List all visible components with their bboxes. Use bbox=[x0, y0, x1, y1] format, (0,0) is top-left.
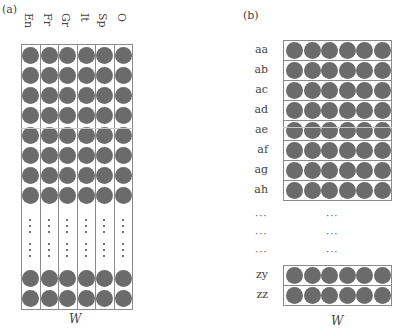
panel-a-label: (a) bbox=[2, 3, 17, 16]
circle bbox=[321, 122, 338, 139]
circle bbox=[304, 82, 321, 99]
circle bbox=[304, 142, 321, 159]
circle bbox=[321, 182, 338, 199]
circle bbox=[41, 127, 58, 144]
circle bbox=[41, 47, 58, 64]
circle bbox=[59, 107, 76, 124]
ellipsis-label: ··· bbox=[255, 211, 268, 221]
circle bbox=[356, 182, 373, 199]
circle bbox=[22, 127, 39, 144]
circle bbox=[78, 87, 95, 104]
circle bbox=[304, 267, 321, 284]
circle bbox=[96, 147, 113, 164]
circle bbox=[321, 267, 338, 284]
circle bbox=[356, 287, 373, 304]
circle bbox=[22, 167, 39, 184]
ellipsis-dot bbox=[85, 255, 87, 257]
row-label-zy: zy bbox=[238, 268, 268, 281]
circle bbox=[59, 47, 76, 64]
circle bbox=[41, 87, 58, 104]
circle bbox=[339, 102, 356, 119]
circle bbox=[115, 67, 132, 84]
circle bbox=[321, 102, 338, 119]
circle bbox=[304, 62, 321, 79]
circle bbox=[96, 187, 113, 204]
circle bbox=[286, 102, 303, 119]
column-label-gr: Gr bbox=[59, 13, 72, 27]
circle bbox=[96, 270, 113, 287]
ellipsis-dot bbox=[85, 231, 87, 233]
ellipsis-dot bbox=[122, 255, 124, 257]
column-label-o: O bbox=[115, 13, 128, 22]
circle bbox=[22, 270, 39, 287]
circle bbox=[286, 122, 303, 139]
circle bbox=[78, 147, 95, 164]
circle bbox=[78, 107, 95, 124]
circle bbox=[286, 142, 303, 159]
circle bbox=[339, 42, 356, 59]
circle bbox=[41, 290, 58, 307]
circle bbox=[59, 187, 76, 204]
circle bbox=[41, 67, 58, 84]
circle bbox=[374, 102, 391, 119]
ellipsis-dot bbox=[85, 249, 87, 251]
panel-b-label: (b) bbox=[243, 9, 259, 22]
circle bbox=[321, 142, 338, 159]
circle bbox=[356, 42, 373, 59]
circle bbox=[115, 47, 132, 64]
row-label-ae: ae bbox=[238, 123, 268, 136]
circle bbox=[339, 82, 356, 99]
circle bbox=[304, 102, 321, 119]
circle bbox=[286, 42, 303, 59]
circle bbox=[59, 147, 76, 164]
circle bbox=[41, 107, 58, 124]
row-label-aa: aa bbox=[238, 43, 268, 56]
row-label-ag: ag bbox=[238, 163, 268, 176]
circle bbox=[339, 62, 356, 79]
circle bbox=[22, 187, 39, 204]
ellipsis-dot bbox=[85, 219, 87, 221]
circle bbox=[356, 122, 373, 139]
ellipsis-dot bbox=[48, 231, 50, 233]
ellipsis-dot bbox=[48, 255, 50, 257]
circle bbox=[59, 67, 76, 84]
circle bbox=[356, 162, 373, 179]
circle bbox=[22, 47, 39, 64]
circle bbox=[78, 167, 95, 184]
circle bbox=[374, 287, 391, 304]
circle bbox=[115, 167, 132, 184]
circle bbox=[41, 270, 58, 287]
ellipsis-dot bbox=[48, 225, 50, 227]
row-label-af: af bbox=[238, 143, 268, 156]
circle bbox=[59, 270, 76, 287]
column-label-en: En bbox=[22, 13, 35, 28]
ellipsis-circles: ··· bbox=[326, 247, 339, 257]
circle bbox=[96, 167, 113, 184]
circle bbox=[22, 87, 39, 104]
circle bbox=[22, 67, 39, 84]
circle bbox=[339, 122, 356, 139]
circle bbox=[22, 290, 39, 307]
circle bbox=[115, 147, 132, 164]
circle bbox=[115, 290, 132, 307]
circle bbox=[286, 267, 303, 284]
circle bbox=[59, 87, 76, 104]
circle bbox=[356, 82, 373, 99]
circle bbox=[96, 87, 113, 104]
circle bbox=[374, 162, 391, 179]
circle bbox=[286, 287, 303, 304]
circle bbox=[356, 267, 373, 284]
circle bbox=[356, 142, 373, 159]
ellipsis-circles: ··· bbox=[326, 211, 339, 221]
circle bbox=[59, 127, 76, 144]
circle bbox=[96, 67, 113, 84]
circle bbox=[41, 187, 58, 204]
circle bbox=[115, 270, 132, 287]
circle bbox=[22, 107, 39, 124]
circle bbox=[304, 182, 321, 199]
circle bbox=[286, 162, 303, 179]
circle bbox=[286, 82, 303, 99]
column-label-sp: Sp bbox=[96, 13, 109, 28]
panel-b-axis-label: W bbox=[331, 314, 343, 328]
row-label-ad: ad bbox=[238, 103, 268, 116]
